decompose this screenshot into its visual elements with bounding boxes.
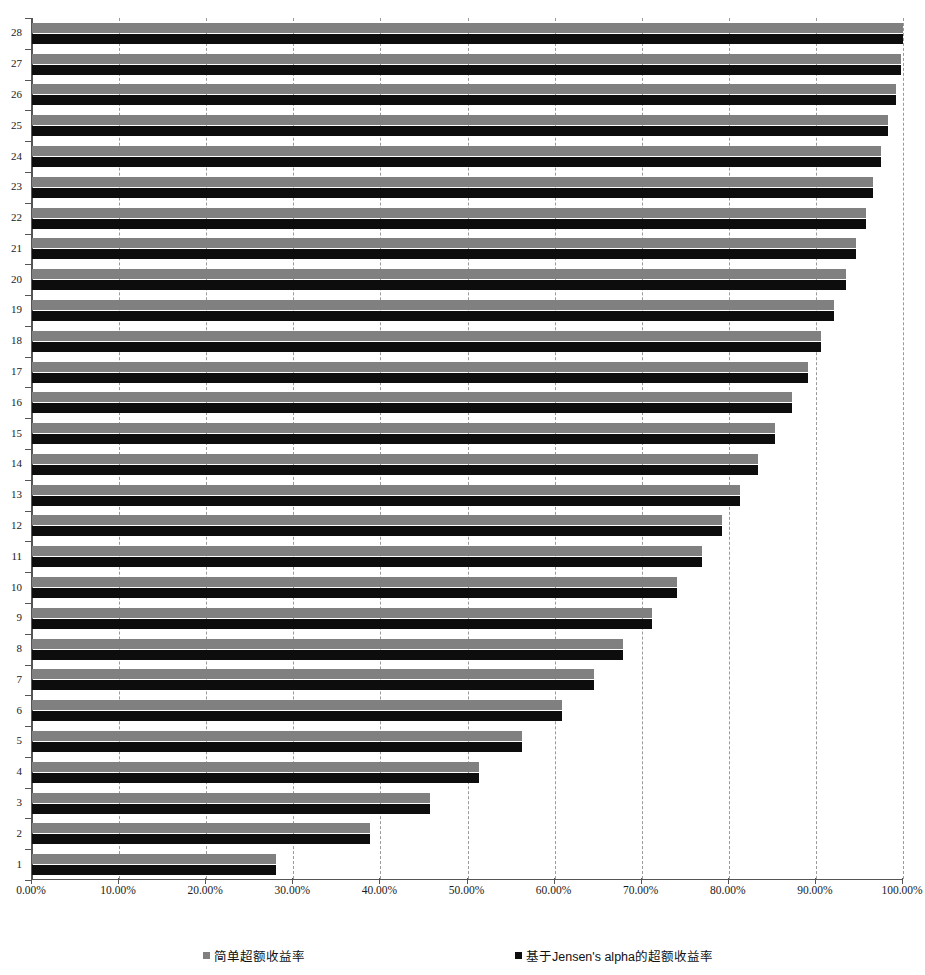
bar-simple-8 xyxy=(32,639,623,649)
y-tick-mark-22 xyxy=(25,234,31,235)
y-tick-label-10: 10 xyxy=(11,582,22,593)
bar-group-19 xyxy=(32,295,902,326)
x-tick-mark-50.00% xyxy=(467,878,468,884)
bar-jensen-10 xyxy=(32,588,677,598)
bar-group-7 xyxy=(32,665,902,696)
bar-jensen-27 xyxy=(32,65,901,75)
bar-group-21 xyxy=(32,234,902,265)
y-tick-mark-15 xyxy=(25,449,31,450)
y-tick-mark-19 xyxy=(25,326,31,327)
legend-label-jensen: 基于Jensen's alpha的超额收益率 xyxy=(526,946,713,965)
bar-jensen-24 xyxy=(32,157,881,167)
x-tick-label-70.00%: 70.00% xyxy=(623,884,658,897)
bar-jensen-28 xyxy=(32,34,903,44)
y-tick-label-14: 14 xyxy=(11,458,22,469)
x-tick-mark-80.00% xyxy=(728,878,729,884)
x-tick-label-40.00%: 40.00% xyxy=(362,884,397,897)
y-tick-label-6: 6 xyxy=(17,705,23,716)
x-tick-mark-10.00% xyxy=(118,878,119,884)
y-tick-mark-14 xyxy=(25,480,31,481)
y-tick-mark-9 xyxy=(25,634,31,635)
bar-jensen-4 xyxy=(32,773,479,783)
bar-group-25 xyxy=(32,110,902,141)
bar-group-13 xyxy=(32,480,902,511)
y-tick-label-11: 11 xyxy=(11,551,22,562)
bar-group-27 xyxy=(32,49,902,80)
bar-jensen-13 xyxy=(32,496,740,506)
plot-area xyxy=(31,18,902,880)
y-tick-label-16: 16 xyxy=(11,397,22,408)
y-tick-label-24: 24 xyxy=(11,151,22,162)
bar-jensen-7 xyxy=(32,680,594,690)
bar-simple-10 xyxy=(32,577,677,587)
y-tick-mark-3 xyxy=(25,818,31,819)
bar-simple-3 xyxy=(32,793,430,803)
bar-simple-6 xyxy=(32,700,562,710)
x-tick-mark-30.00% xyxy=(292,878,293,884)
bar-jensen-14 xyxy=(32,465,758,475)
y-tick-mark-20 xyxy=(25,295,31,296)
x-tick-mark-20.00% xyxy=(205,878,206,884)
bar-simple-25 xyxy=(32,115,888,125)
bar-jensen-8 xyxy=(32,650,623,660)
y-tick-mark-26 xyxy=(25,110,31,111)
bar-jensen-17 xyxy=(32,373,808,383)
x-tick-mark-0.00% xyxy=(31,878,32,884)
y-tick-mark-21 xyxy=(25,264,31,265)
bar-jensen-2 xyxy=(32,834,370,844)
y-tick-mark-10 xyxy=(25,603,31,604)
bar-group-17 xyxy=(32,357,902,388)
y-tick-mark-8 xyxy=(25,665,31,666)
bar-group-24 xyxy=(32,141,902,172)
x-axis: 0.00%10.00%20.00%30.00%40.00%50.00%60.00… xyxy=(0,884,925,906)
bar-simple-21 xyxy=(32,238,856,248)
bar-chart: 1234567891011121314151617181920212223242… xyxy=(0,0,925,975)
x-tick-label-10.00%: 10.00% xyxy=(100,884,135,897)
y-axis: 1234567891011121314151617181920212223242… xyxy=(0,18,28,880)
bar-group-22 xyxy=(32,203,902,234)
chart-legend: 简单超额收益率 基于Jensen's alpha的超额收益率 xyxy=(0,946,925,970)
bar-group-6 xyxy=(32,695,902,726)
bar-jensen-12 xyxy=(32,526,722,536)
y-tick-mark-top xyxy=(25,18,31,19)
bar-jensen-19 xyxy=(32,311,834,321)
bar-jensen-23 xyxy=(32,188,873,198)
bar-group-11 xyxy=(32,541,902,572)
bar-simple-20 xyxy=(32,269,846,279)
y-tick-label-26: 26 xyxy=(11,89,22,100)
x-tick-mark-90.00% xyxy=(815,878,816,884)
y-tick-label-25: 25 xyxy=(11,120,22,131)
y-tick-mark-12 xyxy=(25,541,31,542)
legend-swatch-jensen-icon xyxy=(515,952,522,959)
legend-swatch-simple-icon xyxy=(203,952,210,959)
y-tick-mark-28 xyxy=(25,49,31,50)
y-tick-label-5: 5 xyxy=(17,735,23,746)
bar-jensen-21 xyxy=(32,249,856,259)
bar-group-15 xyxy=(32,418,902,449)
bar-group-16 xyxy=(32,387,902,418)
bar-simple-14 xyxy=(32,454,758,464)
y-tick-mark-24 xyxy=(25,172,31,173)
x-tick-mark-60.00% xyxy=(554,878,555,884)
bar-jensen-11 xyxy=(32,557,702,567)
y-tick-mark-18 xyxy=(25,357,31,358)
x-tick-mark-40.00% xyxy=(379,878,380,884)
bar-group-3 xyxy=(32,788,902,819)
y-tick-mark-11 xyxy=(25,572,31,573)
x-tick-label-90.00%: 90.00% xyxy=(797,884,832,897)
x-tick-label-20.00%: 20.00% xyxy=(187,884,222,897)
bar-group-23 xyxy=(32,172,902,203)
bar-simple-26 xyxy=(32,84,896,94)
x-tick-label-80.00%: 80.00% xyxy=(710,884,745,897)
y-tick-label-20: 20 xyxy=(11,274,22,285)
y-tick-label-13: 13 xyxy=(11,489,22,500)
y-tick-label-8: 8 xyxy=(17,643,23,654)
bar-simple-11 xyxy=(32,546,702,556)
y-tick-label-22: 22 xyxy=(11,212,22,223)
bar-jensen-9 xyxy=(32,619,652,629)
bar-simple-23 xyxy=(32,177,873,187)
bar-jensen-5 xyxy=(32,742,522,752)
bar-jensen-26 xyxy=(32,95,896,105)
bar-simple-2 xyxy=(32,823,370,833)
bar-jensen-15 xyxy=(32,434,775,444)
